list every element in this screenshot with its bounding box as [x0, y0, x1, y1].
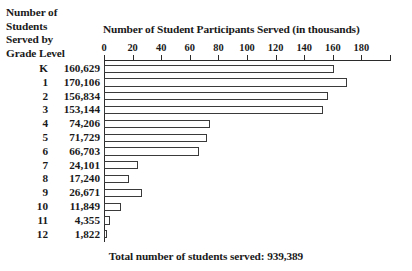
grade-label-8: 8: [0, 172, 48, 186]
chart-row: 121,822: [0, 228, 412, 242]
grade-label-K: K: [0, 62, 48, 76]
x-tick-label-140: 140: [296, 42, 312, 53]
x-tick-label-160: 160: [325, 42, 341, 53]
bar-6: [104, 147, 199, 155]
grade-label-11: 11: [0, 214, 48, 228]
grade-label-6: 6: [0, 145, 48, 159]
value-label-K: 160,629: [50, 62, 100, 76]
bar-track: [104, 62, 404, 76]
side-title-line-1: Number of: [6, 6, 102, 20]
grade-label-12: 12: [0, 228, 48, 242]
bar-9: [104, 189, 142, 197]
grade-label-1: 1: [0, 76, 48, 90]
chart-row: 1011,849: [0, 200, 412, 214]
chart-rows: K160,6291170,1062156,8343153,144474,2065…: [0, 62, 412, 241]
chart-row: 817,240: [0, 172, 412, 186]
x-tick-label-80: 80: [213, 42, 223, 53]
x-tick-label-180: 180: [354, 42, 370, 53]
bar-10: [104, 203, 121, 211]
bar-chart: Number of Students Served by Grade Level…: [0, 0, 412, 271]
grade-label-9: 9: [0, 186, 48, 200]
bar-2: [104, 92, 328, 100]
chart-row: 474,206: [0, 117, 412, 131]
x-axis-end-cap: [390, 55, 391, 61]
value-label-8: 17,240: [50, 172, 100, 186]
value-label-4: 74,206: [50, 117, 100, 131]
value-label-3: 153,144: [50, 103, 100, 117]
chart-row: 926,671: [0, 186, 412, 200]
bar-5: [104, 134, 207, 142]
grade-label-3: 3: [0, 103, 48, 117]
value-label-11: 4,355: [50, 214, 100, 228]
bar-8: [104, 175, 129, 183]
bar-track: [104, 200, 404, 214]
grade-label-4: 4: [0, 117, 48, 131]
value-label-2: 156,834: [50, 90, 100, 104]
bar-3: [104, 106, 323, 114]
bar-track: [104, 214, 404, 228]
x-tick-label-20: 20: [127, 42, 137, 53]
x-tick-label-120: 120: [268, 42, 284, 53]
bar-track: [104, 186, 404, 200]
value-label-1: 170,106: [50, 76, 100, 90]
value-label-6: 66,703: [50, 145, 100, 159]
bar-track: [104, 145, 404, 159]
x-axis-title: Number of Student Participants Served (i…: [103, 23, 360, 35]
value-label-10: 11,849: [50, 200, 100, 214]
grade-label-7: 7: [0, 159, 48, 173]
chart-row: K160,629: [0, 62, 412, 76]
value-label-12: 1,822: [50, 228, 100, 242]
total-caption: Total number of students served: 939,389: [0, 250, 412, 262]
bar-track: [104, 117, 404, 131]
chart-row: 1170,106: [0, 76, 412, 90]
bar-11: [104, 216, 110, 224]
grade-label-10: 10: [0, 200, 48, 214]
bar-track: [104, 228, 404, 242]
bar-track: [104, 172, 404, 186]
side-title-line-2: Students: [6, 20, 102, 34]
x-tick-label-100: 100: [239, 42, 255, 53]
x-axis-line: [104, 60, 390, 61]
bar-4: [104, 120, 210, 128]
chart-row: 724,101: [0, 159, 412, 173]
chart-row: 114,355: [0, 214, 412, 228]
bar-track: [104, 131, 404, 145]
value-label-7: 24,101: [50, 159, 100, 173]
chart-row: 2156,834: [0, 90, 412, 104]
value-label-5: 71,729: [50, 131, 100, 145]
chart-row: 571,729: [0, 131, 412, 145]
bar-track: [104, 103, 404, 117]
bar-track: [104, 76, 404, 90]
x-tick-label-60: 60: [185, 42, 195, 53]
grade-label-2: 2: [0, 90, 48, 104]
chart-row: 3153,144: [0, 103, 412, 117]
bar-1: [104, 78, 347, 86]
bar-7: [104, 161, 138, 169]
x-axis-tick-labels: 020406080100120140160180: [0, 42, 412, 55]
chart-row: 666,703: [0, 145, 412, 159]
x-tick-label-40: 40: [156, 42, 166, 53]
bar-K: [104, 65, 334, 73]
value-label-9: 26,671: [50, 186, 100, 200]
bar-12: [104, 230, 107, 238]
grade-label-5: 5: [0, 131, 48, 145]
x-tick-label-0: 0: [101, 42, 106, 53]
bar-track: [104, 159, 404, 173]
bar-track: [104, 90, 404, 104]
